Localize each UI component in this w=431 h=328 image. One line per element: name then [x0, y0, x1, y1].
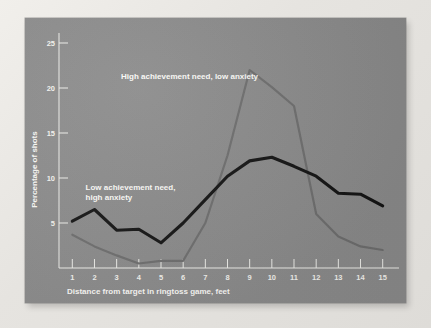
y-axis-title: Percentage of shots: [30, 131, 39, 208]
line-chart: 510152025123456789101112131415Distance f…: [25, 18, 406, 303]
series-annotation-1: High achievement need, low anxiety: [121, 72, 258, 81]
series-line-high-achievement-low-anxiety: [72, 70, 382, 264]
x-tick-label: 6: [181, 273, 185, 282]
x-tick-label: 7: [203, 273, 207, 282]
y-tick-label: 20: [47, 84, 55, 93]
y-tick-label: 10: [47, 174, 55, 183]
x-tick-label: 13: [334, 273, 342, 282]
y-tick-label: 15: [47, 129, 55, 138]
x-tick-label: 2: [92, 273, 96, 282]
x-tick-label: 4: [137, 273, 142, 282]
chart-panel: 510152025123456789101112131415Distance f…: [25, 18, 406, 303]
x-tick-label: 12: [312, 273, 320, 282]
x-tick-label: 8: [225, 273, 229, 282]
x-tick-label: 1: [70, 273, 74, 282]
x-tick-label: 15: [379, 273, 387, 282]
y-tick-label: 5: [51, 219, 55, 228]
chart-svg: 510152025123456789101112131415Distance f…: [25, 18, 406, 303]
series-annotation-2: high anxiety: [86, 193, 133, 202]
x-tick-label: 14: [356, 273, 365, 282]
y-tick-label: 25: [47, 39, 55, 48]
x-tick-label: 5: [159, 273, 163, 282]
x-tick-label: 11: [290, 273, 298, 282]
x-tick-label: 10: [268, 273, 276, 282]
series-annotation-2: Low achievement need,: [86, 183, 176, 192]
x-axis-title: Distance from target in ringtoss game, f…: [67, 287, 230, 296]
x-tick-label: 9: [248, 273, 252, 282]
x-tick-label: 3: [115, 273, 119, 282]
